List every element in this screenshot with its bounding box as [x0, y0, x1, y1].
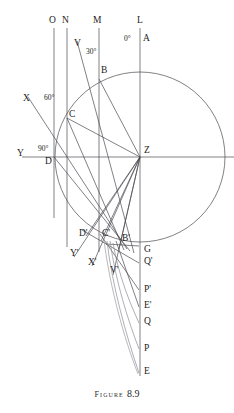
- label-Z: Z: [144, 146, 150, 156]
- segment-Bprime-Eprime: [116, 241, 139, 307]
- label-L: L: [137, 16, 143, 26]
- label-X: X: [23, 94, 30, 104]
- label-M: M: [93, 16, 101, 26]
- ray-Z-to-Vprime: [113, 157, 140, 275]
- label-angle-90: 90°: [38, 145, 49, 153]
- label-D-prime: D': [79, 229, 88, 239]
- label-angle-60: 60°: [44, 94, 55, 102]
- figure-caption: Figure 8.9: [0, 388, 234, 399]
- label-Q: Q: [144, 317, 151, 327]
- label-X-prime: X': [88, 258, 97, 268]
- label-V: V: [74, 39, 81, 49]
- label-C: C: [69, 110, 75, 120]
- geometry-drawing: [0, 0, 234, 413]
- label-V-prime: V': [110, 266, 119, 276]
- label-B-prime: B': [122, 234, 130, 244]
- label-O: O: [49, 16, 56, 26]
- label-E-prime: E': [144, 301, 152, 311]
- figure-caption-prefix: Figure: [95, 390, 124, 399]
- label-angle-30: 30°: [86, 48, 97, 56]
- label-P: P: [144, 344, 149, 354]
- label-P-prime: P': [144, 285, 151, 295]
- label-N: N: [62, 16, 69, 26]
- label-Q-prime: Q': [144, 257, 153, 267]
- label-E: E: [144, 367, 150, 377]
- label-D: D: [45, 157, 52, 167]
- chord-D-to-lower: [54, 157, 130, 251]
- label-B: B: [101, 66, 107, 76]
- label-A: A: [143, 34, 150, 44]
- segment-Cprime-Pprime: [100, 234, 139, 290]
- label-C-prime: C': [102, 229, 110, 239]
- label-angle-0: 0°: [124, 35, 131, 43]
- radius-ZC: [67, 118, 140, 157]
- label-Y-prime: Y': [70, 249, 79, 259]
- figure-caption-number: 8.9: [127, 388, 140, 399]
- label-Y: Y: [17, 149, 24, 159]
- figure-container: O N M L V 30° 0° A B X 60° C Y 90° D Z D…: [0, 0, 234, 413]
- label-G: G: [144, 245, 151, 255]
